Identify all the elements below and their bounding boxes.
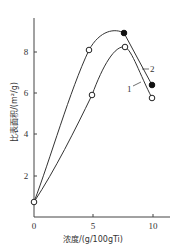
chart: 2 4 6 8 0 5 10 浓度/(g/100gTi) 比表面积/(m²/g)… (0, 0, 181, 251)
x-tick-label: 10 (149, 221, 159, 231)
series-2-curve (34, 31, 152, 202)
series-1-label: 1 (127, 84, 132, 94)
y-tick-label: 8 (24, 47, 29, 57)
y-axis-title: 比表面积/(m²/g) (9, 82, 19, 142)
y-tick-label: 6 (24, 88, 29, 98)
y-tick-label: 2 (24, 171, 29, 181)
series-2-label: 2 (150, 64, 155, 74)
x-tick-label: 0 (32, 221, 37, 231)
y-tick-label: 4 (24, 129, 29, 139)
series-1-curve (34, 47, 152, 202)
x-axis-title: 浓度/(g/100gTi) (63, 234, 123, 244)
origin-marker (31, 199, 37, 205)
series-1-leader (133, 82, 141, 86)
x-tick-label: 5 (91, 221, 96, 231)
y-ticks: 2 4 6 8 (24, 47, 37, 181)
